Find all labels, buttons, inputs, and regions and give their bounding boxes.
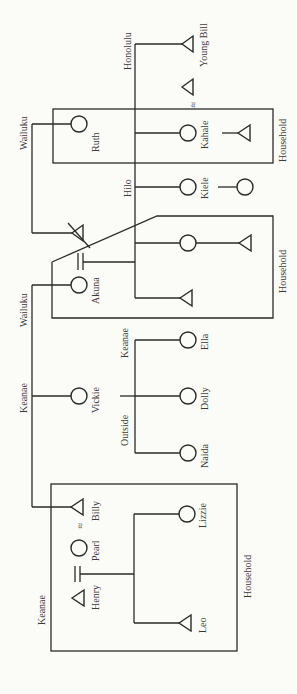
person-label-leo: Leo (197, 617, 208, 633)
naida-circle-icon (180, 445, 196, 461)
person-label-lizzie: Lizzie (197, 502, 208, 528)
kahale-child-triangle-icon (238, 125, 250, 141)
person-label-ruth: Ruth (90, 133, 101, 152)
person-label-henry: Henry (90, 585, 101, 610)
person-label-billy: Billy (90, 501, 101, 521)
place-label-hilo: Hilo (122, 179, 133, 197)
leo-triangle-icon (179, 615, 191, 631)
male-triangle-icon (182, 79, 193, 95)
dolly-circle-icon (180, 388, 196, 404)
place-label-keanae-children: Keanae (119, 327, 130, 358)
kahale-circle-icon (180, 125, 196, 141)
akuna-circle-icon (71, 277, 87, 293)
kiele-circle-icon (180, 179, 196, 195)
person-label-kahale: Kahale (199, 120, 210, 149)
henry-triangle-icon (72, 590, 84, 606)
lizzie-circle-icon (179, 506, 195, 522)
person-label-pearl: Pearl (90, 540, 101, 561)
household-label-bottom: Household (242, 555, 253, 598)
informal-union-symbol-billy: ≈ (75, 523, 86, 529)
place-label-keanae-mid: Keanae (18, 382, 29, 413)
child-triangle-icon (180, 290, 192, 306)
place-label-honolulu: Honolulu (122, 32, 133, 70)
place-label-wailuku-mid: Wailuku (18, 293, 29, 327)
person-label-ella: Ella (199, 333, 210, 350)
ella-circle-icon (180, 332, 196, 348)
grandchild-triangle-icon (239, 235, 251, 251)
place-label-outside: Outside (119, 414, 130, 446)
place-label-wailuku-top: Wailuku (18, 116, 29, 150)
person-label-young-bill: Young Bill (198, 23, 209, 67)
pearl-circle-icon (71, 540, 87, 556)
person-label-kiele: Kiele (199, 177, 210, 199)
household-box-middle (52, 216, 273, 318)
billy-triangle-icon (71, 499, 83, 515)
person-label-naida: Naida (199, 444, 210, 468)
kiele-child-circle-icon (237, 179, 253, 195)
child-circle-icon (180, 235, 196, 251)
vickie-circle-icon (71, 388, 87, 404)
household-box-top (53, 109, 273, 163)
deceased-strike-line (68, 223, 90, 248)
young-bill-triangle-icon (182, 36, 193, 52)
informal-union-symbol: ≈ (188, 102, 199, 108)
place-label-keanae-bottom: Keanae (36, 594, 47, 625)
kinship-diagram: ≈ ≈ (0, 0, 297, 694)
household-label-middle: Household (277, 250, 288, 293)
household-label-top: Household (277, 119, 288, 162)
person-label-vickie: Vickie (90, 386, 101, 413)
ruth-circle-icon (71, 116, 87, 132)
person-label-dolly: Dolly (199, 387, 210, 410)
person-label-akuna: Akuna (90, 277, 101, 304)
